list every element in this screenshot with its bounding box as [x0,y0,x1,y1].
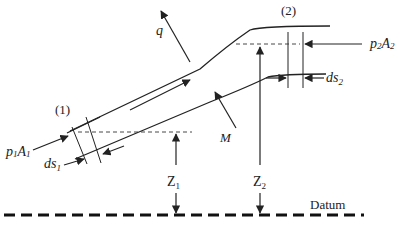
tube-upper-wall [70,26,330,131]
section-1-line-a [72,127,87,164]
p2A2-label: p2A2 [369,36,395,51]
z1-label: Z1 [167,174,180,191]
section-1-line-b [86,117,101,163]
q-label: q [156,23,163,38]
section-2-label: (2) [281,3,296,18]
z2-label: Z2 [253,174,266,191]
streamtube-diagram: q (1) (2) p1A1 ds1 Z1 M p2A2 ds2 Z [0,0,404,227]
section-1-reaction-arrow [103,146,124,154]
ds1-label: ds1 [44,156,61,173]
flow-arrow [130,80,190,110]
p1A1-label: p1A1 [5,144,31,159]
ds2-label: ds2 [326,70,343,87]
section-1-label: (1) [55,102,70,117]
M-arrow [215,92,236,128]
ds1-arrow [64,159,84,165]
diagram-svg: q (1) (2) p1A1 ds1 Z1 M p2A2 ds2 Z [0,0,404,227]
M-label: M [219,130,232,145]
p1A1-arrow [33,136,68,150]
datum-label: Datum [310,197,345,212]
tube-upper-wall-b [67,117,100,133]
heat-q-arrow [161,11,190,62]
